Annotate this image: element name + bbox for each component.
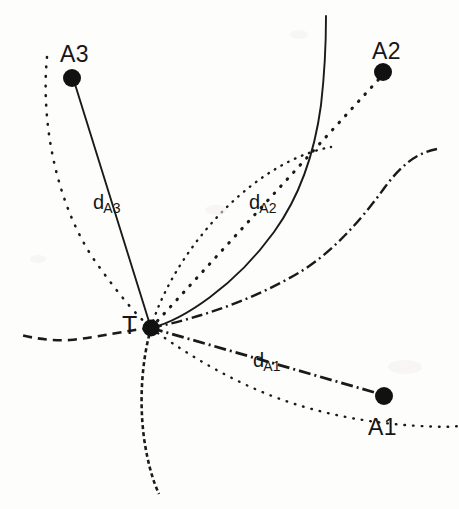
distance-label-da2: dA2 — [249, 192, 278, 212]
node-label-t: T — [122, 313, 137, 338]
node-label-a1: A1 — [368, 416, 397, 439]
node-t — [143, 320, 160, 337]
distance-label-da1: dA1 — [253, 350, 282, 370]
node-a1 — [375, 387, 393, 405]
range-arc-a1-lower — [151, 328, 459, 427]
distance-label-da3-sub: A3 — [103, 200, 121, 216]
trilateration-figure: A3 A2 A1 T dA3 dA2 dA1 — [0, 0, 459, 509]
range-arc-a1-left — [142, 328, 159, 494]
node-label-a2: A2 — [372, 40, 401, 63]
distance-label-da3: dA3 — [93, 192, 122, 212]
range-arc-a2-right — [151, 16, 326, 328]
range-arc-a1-right — [151, 149, 437, 328]
node-a3 — [63, 69, 81, 87]
distance-label-da2-sub: A2 — [259, 200, 277, 216]
node-label-a3: A3 — [60, 43, 89, 66]
node-a2 — [374, 63, 392, 81]
distance-label-da1-sub: A1 — [263, 358, 281, 374]
